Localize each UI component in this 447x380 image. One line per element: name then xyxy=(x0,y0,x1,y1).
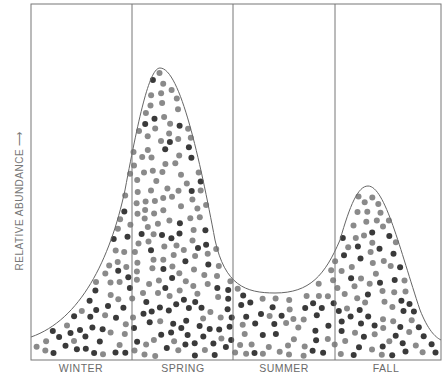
plot-frame xyxy=(31,4,441,360)
y-axis-label: RELATIVE ABUNDANCE ⟶ xyxy=(14,101,25,271)
x-label-spring: SPRING xyxy=(133,362,233,374)
x-label-winter: WINTER xyxy=(31,362,131,374)
stipple-dots xyxy=(34,70,439,359)
x-label-fall: FALL xyxy=(336,362,436,374)
abundance-chart xyxy=(0,0,447,380)
x-label-summer: SUMMER xyxy=(234,362,334,374)
